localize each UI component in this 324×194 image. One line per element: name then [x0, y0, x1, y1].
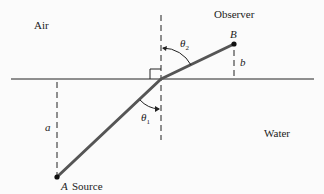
theta2-arrowhead [162, 46, 167, 51]
observer-label: Observer [214, 9, 254, 20]
theta1-arrowhead [155, 106, 160, 112]
medium-label-air: Air [34, 20, 49, 31]
distance-b-label: b [240, 57, 246, 68]
point-a-label: A [61, 181, 68, 192]
theta1-subscript: 1 [146, 118, 150, 126]
source-label: Source [72, 181, 103, 192]
medium-label-water: Water [264, 128, 290, 139]
right-angle-marker [150, 69, 161, 79]
theta2-subscript: 2 [185, 44, 189, 52]
point-b [231, 41, 236, 46]
point-b-label: B [230, 29, 237, 40]
distance-a-label: a [45, 122, 51, 133]
point-a [54, 174, 59, 179]
theta1-label: θ1 [141, 112, 150, 126]
theta2-label: θ2 [180, 38, 189, 52]
